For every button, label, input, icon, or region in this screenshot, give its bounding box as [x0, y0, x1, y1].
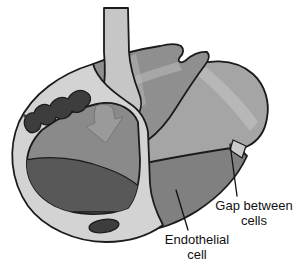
gap-label-line1: Gap between [212, 198, 296, 213]
endothelial-cell-label: Endothelial cell [152, 232, 242, 262]
endothelial-label-line2: cell [152, 247, 242, 262]
gap-between-cells-label: Gap between cells [212, 198, 296, 228]
endothelial-label-line1: Endothelial [152, 232, 242, 247]
gap-label-line2: cells [212, 213, 296, 228]
nucleus-dot [23, 114, 26, 117]
capillary-diagram: Gap between cells Endothelial cell [0, 0, 298, 267]
